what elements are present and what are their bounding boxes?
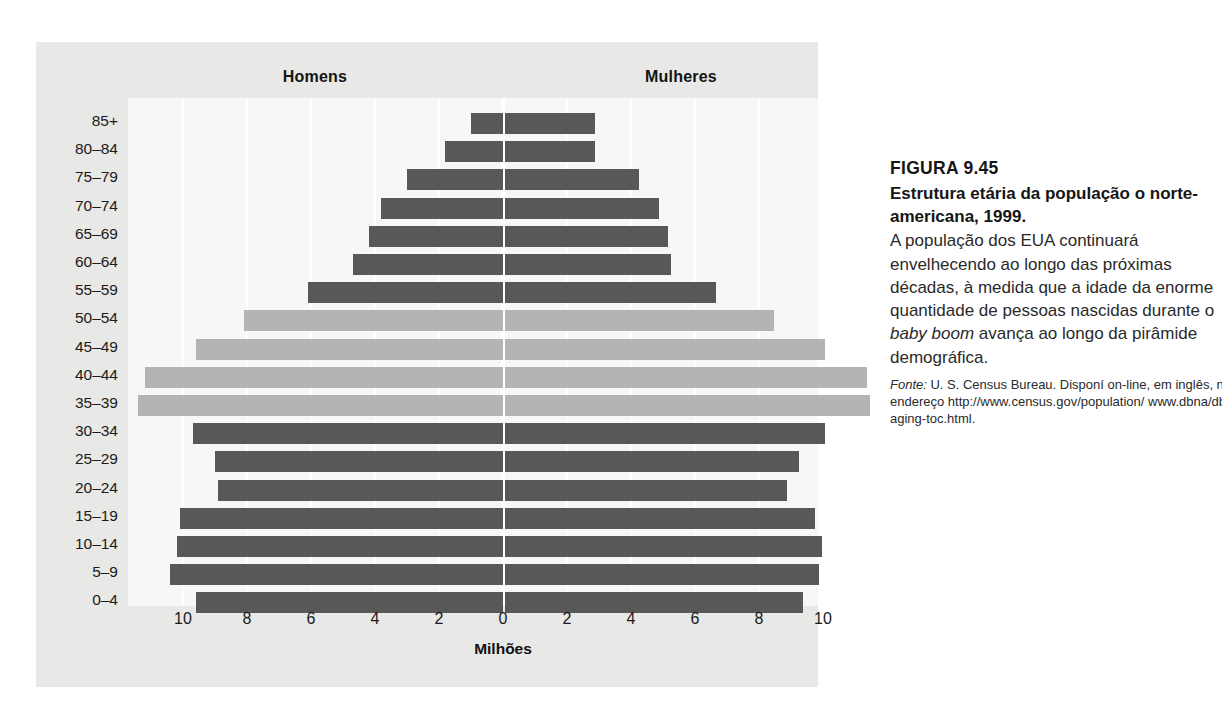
bar-female-80-84 (505, 141, 595, 162)
bar-female-45-49 (505, 339, 825, 360)
bar-female-20-24 (505, 480, 787, 501)
y-axis-label: 75–79 (28, 168, 118, 186)
x-axis-tick-label: 10 (174, 610, 192, 628)
bar-female-15-19 (505, 508, 815, 529)
y-axis-label: 45–49 (28, 338, 118, 356)
y-axis-label: 85+ (28, 112, 118, 130)
bar-male-70-74 (381, 198, 503, 219)
bar-female-5-9 (505, 564, 819, 585)
bar-row (128, 195, 818, 223)
plot-area (128, 98, 818, 606)
column-header-homens: Homens (283, 68, 347, 86)
bar-row (128, 420, 818, 448)
x-axis-tick-label: 8 (755, 610, 764, 628)
bar-row (128, 223, 818, 251)
caption-source: Fonte: U. S. Census Bureau. Disponí on-l… (890, 377, 1222, 428)
caption-source-text: U. S. Census Bureau. Disponí on-line, em… (890, 377, 1222, 426)
bar-female-30-34 (505, 423, 825, 444)
y-axis-label: 40–44 (28, 366, 118, 384)
y-axis-label: 50–54 (28, 309, 118, 327)
bar-female-70-74 (505, 198, 659, 219)
x-axis-title: Milhões (474, 640, 532, 658)
x-axis-tick-label: 4 (627, 610, 636, 628)
x-axis-tick-label: 4 (371, 610, 380, 628)
bar-male-30-34 (193, 423, 503, 444)
bar-row (128, 251, 818, 279)
x-axis-ticks: 1086420246810 (128, 610, 818, 636)
bar-male-25-29 (215, 451, 503, 472)
bar-male-65-69 (369, 226, 503, 247)
bar-female-10-14 (505, 536, 822, 557)
bar-female-55-59 (505, 282, 716, 303)
bar-row (128, 505, 818, 533)
bar-male-85+ (471, 113, 503, 134)
figure-caption: FIGURA 9.45 Estrutura etária da populaçã… (890, 158, 1222, 428)
y-axis-label: 0–4 (28, 591, 118, 609)
caption-title: Estrutura etária da população o norte-am… (890, 182, 1222, 228)
y-axis-label: 10–14 (28, 535, 118, 553)
bar-female-40-44 (505, 367, 867, 388)
y-axis-label: 65–69 (28, 225, 118, 243)
y-axis-label: 20–24 (28, 479, 118, 497)
y-axis-label: 55–59 (28, 281, 118, 299)
bar-row (128, 336, 818, 364)
bar-male-80-84 (445, 141, 503, 162)
bar-female-60-64 (505, 254, 671, 275)
y-axis-label: 15–19 (28, 507, 118, 525)
caption-body-part1: A população dos EUA continuará envelhece… (890, 231, 1214, 320)
y-axis-label: 35–39 (28, 394, 118, 412)
bar-male-45-49 (196, 339, 503, 360)
x-axis-tick-label: 6 (691, 610, 700, 628)
bar-male-20-24 (218, 480, 503, 501)
y-axis-label: 30–34 (28, 422, 118, 440)
caption-source-lead: Fonte: (890, 377, 927, 392)
bar-male-50-54 (244, 310, 503, 331)
bar-male-15-19 (180, 508, 503, 529)
bar-male-60-64 (353, 254, 503, 275)
y-axis-label: 60–64 (28, 253, 118, 271)
bar-row (128, 477, 818, 505)
x-axis-tick-label: 0 (499, 610, 508, 628)
bar-female-50-54 (505, 310, 774, 331)
y-axis-label: 5–9 (28, 563, 118, 581)
bar-male-10-14 (177, 536, 503, 557)
bar-female-85+ (505, 113, 595, 134)
x-axis-tick-label: 10 (814, 610, 832, 628)
bar-female-75-79 (505, 169, 639, 190)
bar-male-40-44 (145, 367, 503, 388)
bar-row (128, 110, 818, 138)
bar-row (128, 448, 818, 476)
x-axis-tick-label: 6 (307, 610, 316, 628)
caption-body-italic: baby boom (890, 324, 974, 343)
bar-row (128, 138, 818, 166)
caption-figure-number: FIGURA 9.45 (890, 158, 1222, 179)
figure-panel: Homens Mulheres 85+80–8475–7970–7465–696… (36, 42, 818, 687)
bar-female-35-39 (505, 395, 870, 416)
bar-female-25-29 (505, 451, 799, 472)
y-axis-label: 70–74 (28, 197, 118, 215)
x-axis-tick-label: 2 (435, 610, 444, 628)
bar-row (128, 364, 818, 392)
bar-male-55-59 (308, 282, 503, 303)
bar-row (128, 561, 818, 589)
x-axis-tick-label: 8 (243, 610, 252, 628)
bar-row (128, 307, 818, 335)
bar-row (128, 533, 818, 561)
bar-female-65-69 (505, 226, 668, 247)
caption-body: A população dos EUA continuará envelhece… (890, 229, 1222, 369)
x-axis-tick-label: 2 (563, 610, 572, 628)
column-header-band: Homens Mulheres (36, 42, 818, 98)
bar-row (128, 166, 818, 194)
bar-male-35-39 (138, 395, 503, 416)
y-axis-label: 80–84 (28, 140, 118, 158)
y-axis-label: 25–29 (28, 450, 118, 468)
bar-male-5-9 (170, 564, 503, 585)
column-header-mulheres: Mulheres (645, 68, 717, 86)
bar-row (128, 279, 818, 307)
bar-male-75-79 (407, 169, 503, 190)
bar-row (128, 392, 818, 420)
